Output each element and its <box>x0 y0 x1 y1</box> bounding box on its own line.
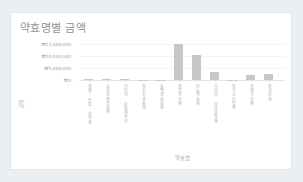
axis-baseline <box>79 80 285 81</box>
x-tick-6 <box>197 80 198 82</box>
x-axis-label-3: 정신신경용제 <box>141 84 146 109</box>
x-tick-9 <box>251 80 252 82</box>
x-tick-0 <box>89 80 90 82</box>
chart-card: 약효명별 금액 ₩15,000,000 ₩10,000,000 ₩5,000,0… <box>10 12 292 170</box>
x-axis-label-2: 기타의 순환계용약 <box>123 84 128 123</box>
bar-5[interactable] <box>174 44 183 80</box>
y-tick-label-10m: ₩10,000,000 <box>19 54 71 59</box>
bar-7[interactable] <box>210 72 219 80</box>
x-axis-label-7: 기타의 화학요법제 <box>213 84 218 123</box>
y-tick-label-5m: ₩5,000,000 <box>19 66 71 71</box>
x-axis-label-10: 안과용제 <box>267 84 272 101</box>
x-axis-label-9: 진해거담제 <box>249 84 254 105</box>
x-axis-label-0: 해열.진통.소염제 <box>87 84 92 124</box>
y-tick-label-15m: ₩15,000,000 <box>19 42 71 47</box>
x-tick-7 <box>215 80 216 82</box>
bar-6[interactable] <box>192 55 201 80</box>
x-tick-10 <box>269 80 270 82</box>
x-tick-8 <box>233 80 234 82</box>
x-axis-label-1: 소화성궤양용제 <box>105 84 110 113</box>
x-tick-4 <box>161 80 162 82</box>
x-axis-label-5: 혈압강하제 <box>177 84 182 105</box>
y-axis-title: 금액 <box>18 84 24 124</box>
plot-area: ₩15,000,000 ₩10,000,000 ₩5,000,000 ₩0 금액… <box>11 13 293 171</box>
x-axis-title: 약효명 <box>79 154 285 161</box>
x-axis-label-4: 동맥경화용제 <box>159 84 164 109</box>
x-axis-label-8: 항히스타민제 <box>231 84 236 109</box>
y-tick-label-0: ₩0 <box>19 78 71 83</box>
x-tick-1 <box>107 80 108 82</box>
x-axis-label-6: 당뇨병용제 <box>195 84 200 105</box>
x-tick-3 <box>143 80 144 82</box>
x-tick-2 <box>125 80 126 82</box>
x-tick-5 <box>179 80 180 82</box>
